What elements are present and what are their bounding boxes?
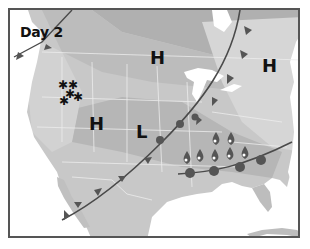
map-canvas: ✱ ✱ ✱ ✱ ✱ H H H L — [10, 10, 300, 238]
map-title: Day 2 — [20, 24, 63, 40]
high-pressure-label: H — [150, 47, 165, 68]
low-pressure-label: L — [136, 121, 147, 142]
weather-map: ✱ ✱ ✱ ✱ ✱ H H H L Day 2 — [8, 8, 300, 238]
high-pressure-label: H — [89, 113, 104, 134]
snow-icon: ✱ — [59, 94, 69, 108]
snow-icon: ✱ — [73, 90, 83, 104]
high-pressure-label: H — [262, 55, 277, 76]
